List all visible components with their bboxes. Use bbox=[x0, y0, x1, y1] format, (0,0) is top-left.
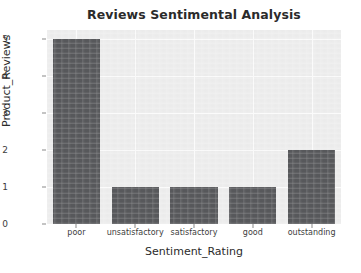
y-tick-mark bbox=[42, 224, 46, 225]
chart-figure: Reviews Sentimental Analysis 012345 poor… bbox=[0, 0, 361, 273]
y-tick-mark bbox=[42, 150, 46, 151]
y-tick-label: 2 bbox=[0, 145, 8, 155]
bar-unsatisfactory bbox=[112, 187, 159, 224]
y-tick-label: 0 bbox=[0, 219, 8, 229]
x-tick-mark bbox=[311, 224, 312, 228]
x-tick-mark bbox=[252, 224, 253, 228]
y-tick-mark bbox=[42, 187, 46, 188]
bar-good bbox=[229, 187, 276, 224]
x-tick-label-good: good bbox=[243, 228, 263, 237]
x-axis-title: Sentiment_Rating bbox=[47, 245, 341, 258]
y-tick-mark bbox=[42, 39, 46, 40]
chart-title: Reviews Sentimental Analysis bbox=[47, 7, 341, 22]
bar-satisfactory bbox=[170, 187, 217, 224]
x-tick-label-satisfactory: satisfactory bbox=[171, 228, 218, 237]
x-tick-label-unsatisfactory: unsatisfactory bbox=[107, 228, 164, 237]
x-tick-label-poor: poor bbox=[67, 228, 85, 237]
y-axis-title: Product_Reviews bbox=[0, 35, 13, 127]
bar-outstanding bbox=[288, 150, 335, 224]
x-tick-mark bbox=[76, 224, 77, 228]
x-tick-mark bbox=[194, 224, 195, 228]
y-tick-mark bbox=[42, 113, 46, 114]
y-tick-mark bbox=[42, 76, 46, 77]
plot-area bbox=[47, 30, 341, 224]
x-tick-label-outstanding: outstanding bbox=[288, 228, 336, 237]
bar-poor bbox=[53, 39, 100, 224]
x-tick-mark bbox=[135, 224, 136, 228]
y-tick-label: 1 bbox=[0, 182, 8, 192]
